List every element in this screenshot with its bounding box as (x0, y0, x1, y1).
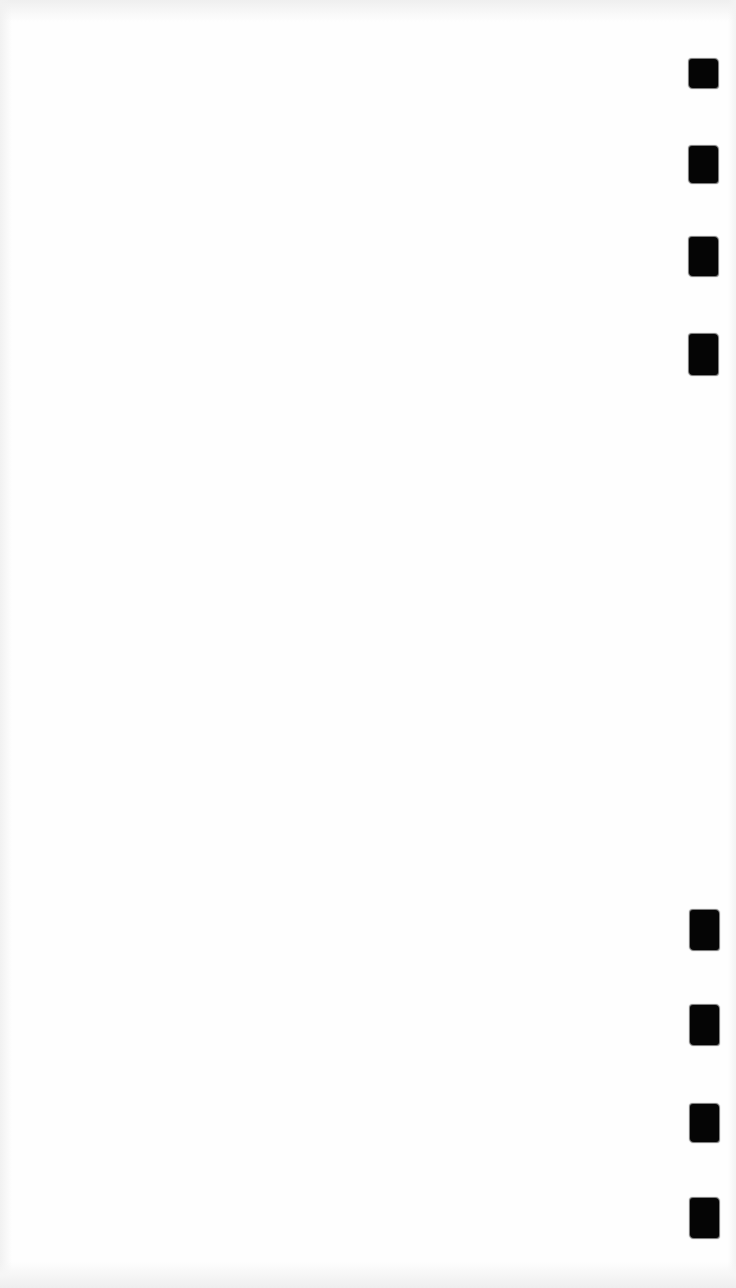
registration-mark (689, 334, 718, 375)
registration-mark (689, 146, 718, 183)
registration-mark (690, 1005, 719, 1045)
scan-edge-top (0, 0, 736, 22)
scan-edge-right (728, 0, 736, 1288)
registration-mark (690, 1104, 719, 1142)
registration-mark (690, 910, 719, 950)
scan-edge-left (0, 0, 12, 1288)
registration-mark (690, 1198, 719, 1238)
registration-mark (689, 59, 718, 88)
scan-edge-bottom (0, 1262, 736, 1288)
scanned-blank-page (0, 0, 736, 1288)
registration-mark (689, 237, 718, 276)
